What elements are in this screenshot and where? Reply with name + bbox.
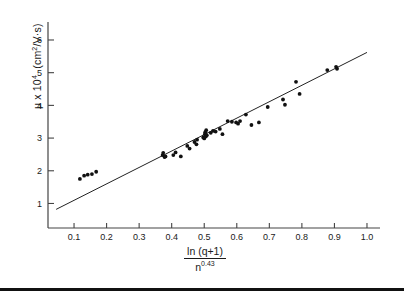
x-axis-label-numerator: ln (q+1): [184, 246, 226, 259]
bottom-divider-rule: [0, 288, 404, 291]
data-point: [195, 142, 199, 146]
y-axis-label: μ x 104 (cm2/V·s): [31, 0, 44, 151]
y-axis-label-units-exponent: 2: [31, 47, 38, 51]
data-point: [78, 177, 82, 181]
data-point: [281, 98, 285, 102]
y-axis-label-mu: μ x 10: [31, 79, 43, 109]
data-point: [244, 113, 248, 117]
data-point: [298, 92, 302, 96]
x-tick-label: 0.3: [133, 232, 146, 242]
data-point: [90, 172, 94, 176]
x-axis-ticks: 0.10.20.30.40.50.60.70.80.91.0: [68, 223, 373, 242]
data-point: [82, 174, 86, 178]
x-tick-label: 0.9: [328, 232, 341, 242]
data-point: [218, 127, 222, 131]
figure-container: 0.10.20.30.40.50.60.70.80.91.0 123456 μ …: [0, 0, 404, 299]
data-point: [266, 105, 270, 109]
data-point: [226, 119, 230, 123]
data-point: [164, 154, 168, 158]
data-point: [230, 120, 234, 124]
data-point: [325, 68, 329, 72]
y-axis-label-exponent: 4: [31, 75, 38, 79]
data-point: [94, 170, 98, 174]
y-axis-label-units: (cm: [31, 51, 43, 69]
y-tick-label: 1: [37, 199, 42, 209]
x-axis-label-fraction: ln (q+1) n0.43: [184, 246, 226, 273]
data-point: [204, 128, 208, 132]
axes-group: [48, 22, 380, 228]
x-tick-label: 1.0: [361, 232, 374, 242]
data-point: [188, 147, 192, 151]
data-point: [86, 173, 90, 177]
data-point: [221, 132, 225, 136]
data-point: [257, 120, 261, 124]
x-axis-label-denominator: n0.43: [184, 259, 226, 273]
x-tick-label: 0.5: [198, 232, 211, 242]
data-point: [195, 138, 199, 142]
x-tick-label: 0.1: [68, 232, 81, 242]
data-point: [205, 133, 209, 137]
y-tick-label: 2: [37, 166, 42, 176]
y-axis-label-units-tail: /V·s): [31, 23, 43, 46]
x-axis-label: ln (q+1) n0.43: [150, 246, 260, 273]
data-point: [250, 123, 254, 127]
data-points: [78, 65, 339, 181]
data-point: [283, 103, 287, 107]
x-tick-label: 0.7: [263, 232, 276, 242]
data-point: [179, 154, 183, 158]
data-point: [161, 151, 165, 155]
data-point: [238, 119, 242, 123]
x-tick-label: 0.6: [231, 232, 244, 242]
data-point: [335, 67, 339, 71]
x-axis-label-denominator-exponent: 0.43: [201, 260, 215, 267]
data-point: [214, 130, 218, 134]
x-tick-label: 0.4: [165, 232, 178, 242]
data-point: [294, 80, 298, 84]
data-point: [174, 151, 178, 155]
x-tick-label: 0.2: [100, 232, 113, 242]
x-tick-label: 0.8: [296, 232, 309, 242]
